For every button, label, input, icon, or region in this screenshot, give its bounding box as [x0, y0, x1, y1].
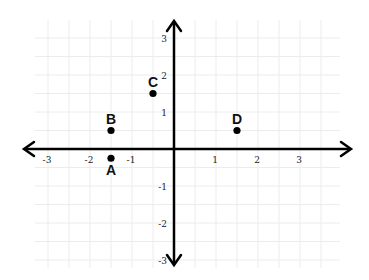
point-a [107, 155, 114, 162]
y-tick-label: 2 [161, 71, 167, 81]
x-tick-label: -3 [43, 155, 52, 165]
x-tick-label: 1 [212, 155, 218, 165]
point-c [149, 90, 156, 97]
axes [24, 21, 351, 265]
point-label-b: B [106, 111, 116, 127]
point-b [107, 127, 114, 134]
y-tick-label: 1 [161, 108, 167, 118]
point-label-c: C [148, 74, 158, 90]
y-tick-label: -1 [158, 182, 167, 192]
x-tick-label: -1 [127, 155, 136, 165]
y-tick-label: -3 [158, 256, 167, 266]
y-tick-label: -2 [158, 219, 167, 229]
point-label-d: D [232, 111, 242, 127]
x-tick-label: 2 [254, 155, 260, 165]
point-d [233, 127, 240, 134]
x-tick-label: 3 [296, 155, 302, 165]
point-label-a: A [106, 162, 116, 178]
grid-lines [35, 20, 340, 268]
x-tick-label: -2 [85, 155, 94, 165]
y-tick-label: 3 [161, 34, 167, 44]
coordinate-plane: -3-2-1123-3-2-1123 ABCD [0, 0, 369, 280]
